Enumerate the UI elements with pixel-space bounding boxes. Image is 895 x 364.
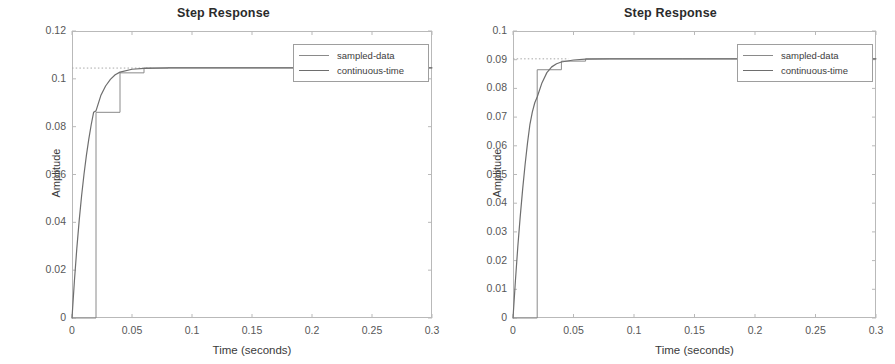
legend: sampled-data continuous-time <box>737 44 873 82</box>
step-response-figure-row: Step Response Amplitude Time (seconds) 0… <box>0 0 895 364</box>
figure-right: Step Response Amplitude Time (seconds) 0… <box>447 0 894 364</box>
legend-line-sampled-icon <box>743 55 773 56</box>
x-tick-label: 0.2 <box>735 324 775 336</box>
x-axis-label: Time (seconds) <box>625 344 765 356</box>
x-tick-label: 0.25 <box>352 324 392 336</box>
legend-label-continuous: continuous-time <box>337 65 404 76</box>
x-tick-label: 0.1 <box>172 324 212 336</box>
y-tick-label: 0.12 <box>46 24 66 36</box>
x-axis-label: Time (seconds) <box>182 344 322 356</box>
figure-left: Step Response Amplitude Time (seconds) 0… <box>0 0 447 364</box>
legend-line-continuous-icon <box>743 70 773 71</box>
x-tick-label: 0.2 <box>292 324 332 336</box>
y-tick-label: 0.05 <box>487 168 507 180</box>
x-tick-label: 0.25 <box>796 324 836 336</box>
legend-item-continuous-time: continuous-time <box>743 63 866 78</box>
y-tick-label: 0.03 <box>487 225 507 237</box>
legend-line-continuous-icon <box>299 70 329 71</box>
y-tick-label: 0.02 <box>487 254 507 266</box>
y-tick-label: 0.04 <box>46 215 66 227</box>
x-tick-label: 0 <box>493 324 533 336</box>
y-tick-label: 0.02 <box>46 263 66 275</box>
y-tick-label: 0.06 <box>487 139 507 151</box>
y-tick-label: 0.1 <box>51 72 66 84</box>
x-tick-label: 0.1 <box>614 324 654 336</box>
y-tick-label: 0.08 <box>46 120 66 132</box>
y-tick-label: 0.04 <box>487 196 507 208</box>
legend-item-sampled-data: sampled-data <box>299 48 422 63</box>
legend-item-sampled-data: sampled-data <box>743 48 866 63</box>
legend-item-continuous-time: continuous-time <box>299 63 422 78</box>
y-tick-label: 0 <box>60 311 66 323</box>
y-tick-label: 0 <box>501 311 507 323</box>
x-tick-label: 0.05 <box>554 324 594 336</box>
x-tick-label: 0.05 <box>112 324 152 336</box>
x-tick-label: 0.15 <box>675 324 715 336</box>
y-tick-label: 0.07 <box>487 110 507 122</box>
y-tick-label: 0.06 <box>46 168 66 180</box>
x-tick-label: 0 <box>52 324 92 336</box>
legend-label-sampled: sampled-data <box>337 50 395 61</box>
legend-line-sampled-icon <box>299 55 329 56</box>
x-tick-label: 0.15 <box>232 324 272 336</box>
y-tick-label: 0.09 <box>487 53 507 65</box>
legend-label-continuous: continuous-time <box>781 65 848 76</box>
y-tick-label: 0.1 <box>492 24 507 36</box>
x-tick-label: 0.3 <box>856 324 895 336</box>
y-tick-label: 0.08 <box>487 81 507 93</box>
legend: sampled-data continuous-time <box>293 44 429 82</box>
x-tick-label: 0.3 <box>412 324 452 336</box>
y-tick-label: 0.01 <box>487 282 507 294</box>
legend-label-sampled: sampled-data <box>781 50 839 61</box>
